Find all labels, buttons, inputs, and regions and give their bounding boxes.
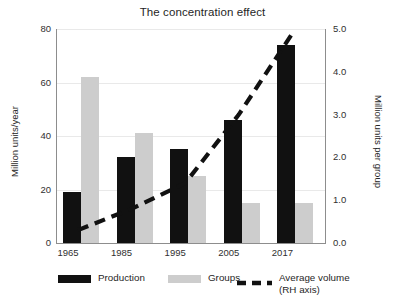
bar-groups[interactable] [81,77,99,243]
legend-label-average-volume-sub: (RH axis) [279,284,350,296]
bar-group [170,29,212,243]
y2-tick-label: 1.0 [333,195,359,205]
bar-production[interactable] [277,45,295,243]
x-tick-label: 1965 [43,247,93,258]
legend-item-groups[interactable]: Groups [168,272,240,284]
y2-tick-label: 2.0 [333,152,359,162]
y-tick-label: 20 [31,185,51,195]
chart-container: The concentration effect 80 60 40 20 0 5… [0,0,405,306]
y2-tick-label: 5.0 [333,24,359,34]
bar-groups[interactable] [188,176,206,243]
x-tick-label: 1995 [150,247,200,258]
legend-dashed-line-icon [237,274,272,284]
bar-group [63,29,105,243]
y-tick-label: 40 [31,131,51,141]
legend-label-average-volume: Average volume (RH axis) [279,272,350,295]
y2-tick-label: 4.0 [333,67,359,77]
bar-production[interactable] [170,149,188,243]
legend-item-production[interactable]: Production [58,272,145,284]
legend-label-production: Production [98,272,145,284]
y-axis-left-ticks: 80 60 40 20 0 [29,0,51,306]
bar-groups[interactable] [135,133,153,243]
legend-label-groups: Groups [208,272,240,284]
legend-label-average-volume-main: Average volume [279,272,350,283]
legend-swatch-groups-icon [168,275,201,283]
legend-swatch-production-icon [58,275,91,283]
y-axis-right-title: Million units per group [373,72,384,212]
chart-legend: Production Groups Average volume (RH axi… [0,272,405,306]
x-tick-label: 2017 [257,247,307,258]
y2-tick-label: 0.0 [333,238,359,248]
bar-groups[interactable] [242,203,260,243]
x-axis-line [56,243,326,244]
y-axis-right-ticks: 5.0 4.0 3.0 2.0 1.0 0.0 [333,0,361,306]
bars-layer [57,29,325,243]
bar-groups[interactable] [295,203,313,243]
bar-group [117,29,159,243]
bar-production[interactable] [224,120,242,243]
y-tick-label: 80 [31,24,51,34]
y-tick-label: 60 [31,78,51,88]
legend-item-average-volume[interactable]: Average volume (RH axis) [237,272,350,295]
y2-tick-label: 3.0 [333,110,359,120]
bar-group [277,29,319,243]
bar-production[interactable] [63,192,81,243]
x-tick-label: 2005 [204,247,254,258]
y-axis-left-title: Million units/year [9,82,20,202]
x-tick-label: 1985 [97,247,147,258]
y-axis-right-line [325,29,326,244]
bar-group [224,29,266,243]
bar-production[interactable] [117,157,135,243]
